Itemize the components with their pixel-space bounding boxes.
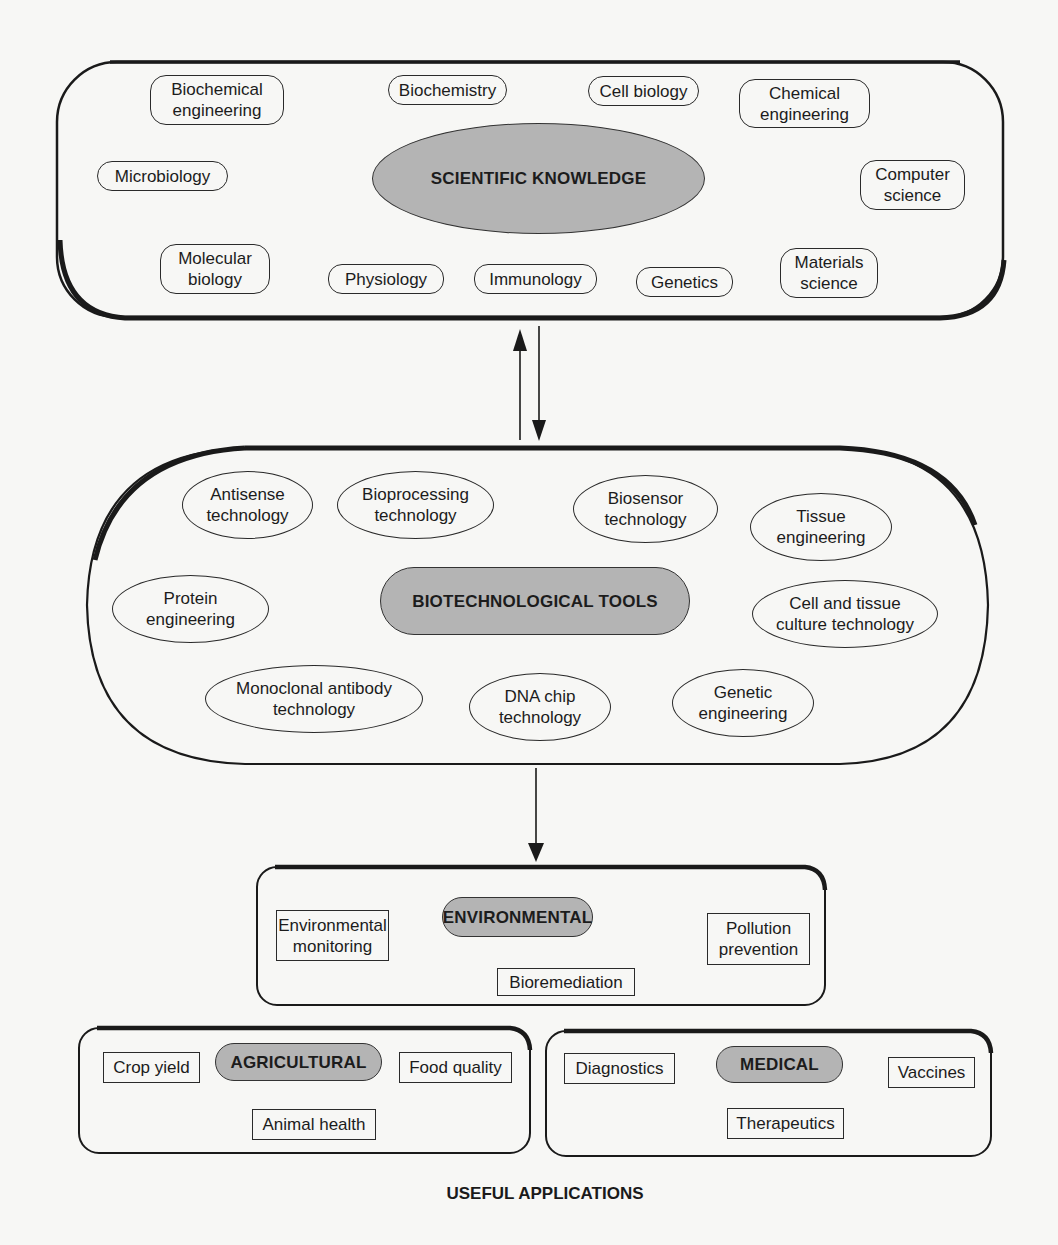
- biotechnological-tools-hub: BIOTECHNOLOGICAL TOOLS: [380, 567, 690, 635]
- app-animal-health: Animal health: [252, 1109, 376, 1140]
- discipline-materials-science: Materials science: [780, 248, 878, 298]
- discipline-biochemistry: Biochemistry: [388, 75, 507, 105]
- tool-genetic-engineering: Genetic engineering: [672, 669, 814, 737]
- useful-applications-caption: USEFUL APPLICATIONS: [380, 1184, 710, 1204]
- app-crop-yield: Crop yield: [103, 1052, 200, 1083]
- tool-cell-and-tissue-culture-technology: Cell and tissue culture technology: [752, 580, 938, 648]
- agricultural-hub: AGRICULTURAL: [215, 1043, 382, 1081]
- tool-monoclonal-antibody-technology: Monoclonal antibody technology: [205, 665, 423, 733]
- bidirectional-arrows: [513, 326, 546, 441]
- app-food-quality: Food quality: [399, 1052, 512, 1083]
- app-environmental-monitoring: Environmental monitoring: [276, 910, 389, 961]
- discipline-biochemical-engineering: Biochemical engineering: [150, 75, 284, 125]
- discipline-immunology: Immunology: [474, 264, 597, 294]
- medical-hub: MEDICAL: [716, 1046, 843, 1083]
- app-bioremediation: Bioremediation: [497, 968, 635, 996]
- discipline-computer-science: Computer science: [860, 160, 965, 210]
- tool-protein-engineering: Protein engineering: [112, 575, 269, 643]
- discipline-cell-biology: Cell biology: [588, 76, 699, 106]
- app-therapeutics: Therapeutics: [727, 1108, 844, 1139]
- tool-dna-chip-technology: DNA chip technology: [469, 673, 611, 741]
- discipline-chemical-engineering: Chemical engineering: [739, 79, 870, 128]
- discipline-molecular-biology: Molecular biology: [160, 244, 270, 294]
- tool-antisense-technology: Antisense technology: [182, 471, 313, 539]
- discipline-physiology: Physiology: [328, 264, 444, 294]
- discipline-microbiology: Microbiology: [97, 161, 228, 191]
- app-vaccines: Vaccines: [888, 1057, 975, 1088]
- tool-biosensor-technology: Biosensor technology: [573, 475, 718, 543]
- down-arrow: [528, 768, 544, 862]
- discipline-genetics: Genetics: [636, 267, 733, 297]
- tool-tissue-engineering: Tissue engineering: [750, 493, 892, 561]
- tool-bioprocessing-technology: Bioprocessing technology: [337, 471, 494, 539]
- scientific-knowledge-hub: SCIENTIFIC KNOWLEDGE: [372, 123, 705, 234]
- app-diagnostics: Diagnostics: [564, 1053, 675, 1084]
- environmental-hub: ENVIRONMENTAL: [442, 897, 593, 937]
- app-pollution-prevention: Pollution prevention: [707, 913, 810, 965]
